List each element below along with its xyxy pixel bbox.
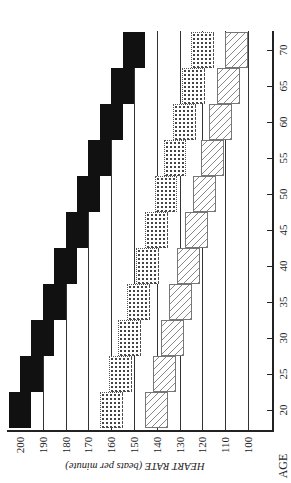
lower-zone-bar	[169, 284, 192, 320]
age-tick-label: 55	[277, 153, 289, 164]
heart-rate-axis-title: HEART RATE (beats per minute)	[65, 461, 204, 472]
age-axis-title: AGE	[276, 454, 291, 479]
lower-zone-bar	[225, 32, 248, 68]
hr-tick-label: 140	[151, 437, 163, 454]
hr-tick-label: 180	[60, 437, 72, 454]
upper-zone-bar	[118, 320, 141, 356]
upper-zone-bar	[100, 392, 123, 428]
hr-tick-label: 110	[219, 437, 231, 453]
upper-zone-bar	[136, 248, 159, 284]
lower-zone-bar	[185, 212, 208, 248]
lower-zone-bar	[201, 140, 224, 176]
max-heart-rate-bar	[9, 392, 32, 428]
age-axis-line	[272, 31, 274, 432]
upper-zone-bar	[109, 356, 132, 392]
max-heart-rate-bar	[100, 104, 123, 140]
max-heart-rate-bar	[43, 284, 66, 320]
age-tick-label: 20	[277, 405, 289, 416]
gridline-130	[180, 31, 181, 430]
hr-tick-label: 130	[174, 437, 186, 454]
hr-tick-label: 160	[105, 437, 117, 454]
max-heart-rate-bar	[31, 320, 54, 356]
gridline-150	[134, 68, 135, 430]
age-tick	[267, 194, 272, 195]
age-tick	[267, 410, 272, 411]
age-tick-label: 50	[277, 189, 289, 200]
heart-rate-chart: 200190180170160150140130120110100 202530…	[0, 0, 291, 483]
age-tick	[267, 158, 272, 159]
age-tick	[267, 230, 272, 231]
lower-zone-bar	[177, 248, 200, 284]
age-tick	[267, 374, 272, 375]
lower-zone-bar	[161, 320, 184, 356]
hr-tick-label: 120	[196, 437, 208, 454]
lower-zone-bar	[193, 176, 216, 212]
age-tick-label: 60	[277, 117, 289, 128]
age-tick-label: 35	[277, 297, 289, 308]
age-tick	[267, 266, 272, 267]
x-axis-baseline	[7, 430, 273, 432]
max-heart-rate-bar	[20, 356, 43, 392]
age-tick-label: 30	[277, 333, 289, 344]
age-tick-label: 45	[277, 225, 289, 236]
age-tick-label: 40	[277, 261, 289, 272]
max-heart-rate-bar	[111, 68, 134, 104]
upper-zone-bar	[145, 212, 168, 248]
upper-zone-bar	[155, 176, 178, 212]
lower-zone-bar	[217, 68, 240, 104]
age-tick	[267, 50, 272, 51]
lower-zone-bar	[153, 356, 176, 392]
hr-tick-label: 170	[82, 437, 94, 454]
hr-tick-label: 200	[14, 437, 26, 454]
gridline-190	[43, 356, 44, 430]
gridline-100	[248, 31, 249, 430]
age-tick-label: 70	[277, 45, 289, 56]
lower-zone-bar	[209, 104, 232, 140]
hr-tick-label: 100	[242, 437, 254, 454]
max-heart-rate-bar	[88, 140, 111, 176]
max-heart-rate-bar	[66, 212, 89, 248]
upper-zone-bar	[127, 284, 150, 320]
gridline-180	[66, 284, 67, 430]
age-tick-label: 25	[277, 369, 289, 380]
age-tick-label: 65	[277, 81, 289, 92]
upper-zone-bar	[164, 140, 187, 176]
age-tick	[267, 338, 272, 339]
hr-tick-label: 190	[37, 437, 49, 454]
upper-zone-bar	[182, 68, 205, 104]
upper-zone-bar	[191, 32, 214, 68]
age-tick	[267, 302, 272, 303]
max-heart-rate-bar	[54, 248, 77, 284]
upper-zone-bar	[173, 104, 196, 140]
age-tick	[267, 86, 272, 87]
age-tick	[267, 122, 272, 123]
hr-tick-label: 150	[128, 437, 140, 454]
max-heart-rate-bar	[123, 32, 146, 68]
max-heart-rate-bar	[77, 176, 100, 212]
lower-zone-bar	[145, 392, 168, 428]
